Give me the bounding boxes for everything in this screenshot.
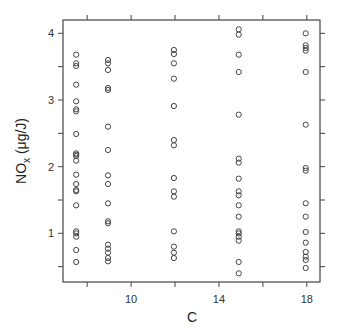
data-point [74, 259, 79, 264]
data-point [171, 250, 176, 255]
x-tick-label: 18 [301, 293, 313, 305]
x-tick-label: 10 [125, 293, 137, 305]
data-point [236, 52, 241, 57]
data-point [236, 27, 241, 32]
data-point [171, 189, 176, 194]
y-axis-title: NOx (μg/J) [13, 118, 32, 184]
data-point [171, 194, 176, 199]
data-point [171, 76, 176, 81]
data-point [74, 131, 79, 136]
data-point [171, 255, 176, 260]
data-point [303, 214, 308, 219]
y-tick-label: 4 [48, 27, 54, 39]
y-axis-title-main: NO [13, 163, 29, 184]
data-point [303, 69, 308, 74]
data-point [74, 82, 79, 87]
data-point [74, 99, 79, 104]
data-point [236, 271, 241, 276]
data-point [236, 259, 241, 264]
data-point [74, 52, 79, 57]
y-axis-title-units: (μg/J) [13, 118, 29, 158]
scatter-chart: 101418 1234 C NOx (μg/J) [0, 0, 341, 331]
y-axis-ticks: 1234 [48, 27, 325, 266]
data-point [171, 103, 176, 108]
data-point [303, 31, 308, 36]
data-points [74, 27, 309, 276]
data-point [74, 181, 79, 186]
data-point [171, 229, 176, 234]
data-point [171, 143, 176, 148]
data-point [105, 61, 110, 66]
data-point [303, 201, 308, 206]
data-point [74, 247, 79, 252]
x-axis-ticks: 101418 [87, 15, 313, 305]
data-point [105, 124, 110, 129]
data-point [236, 203, 241, 208]
data-point [236, 32, 241, 37]
data-point [105, 173, 110, 178]
data-point [236, 214, 241, 219]
data-point [105, 67, 110, 72]
plot-frame [63, 20, 320, 282]
data-point [105, 259, 110, 264]
data-point [303, 229, 308, 234]
data-point [171, 61, 176, 66]
data-point [105, 181, 110, 186]
data-point [105, 201, 110, 206]
data-point [303, 122, 308, 127]
x-tick-label: 14 [213, 293, 225, 305]
data-point [236, 112, 241, 117]
y-tick-label: 2 [48, 161, 54, 173]
data-point [171, 244, 176, 249]
data-point [74, 203, 79, 208]
data-point [74, 234, 79, 239]
y-tick-label: 1 [48, 227, 54, 239]
data-point [74, 172, 79, 177]
data-point [236, 69, 241, 74]
data-point [236, 176, 241, 181]
data-point [105, 147, 110, 152]
y-tick-label: 3 [48, 94, 54, 106]
data-point [171, 137, 176, 142]
data-point [303, 257, 308, 262]
data-point [303, 240, 308, 245]
x-axis-title: C [187, 309, 197, 325]
data-point [171, 175, 176, 180]
data-point [303, 265, 308, 270]
